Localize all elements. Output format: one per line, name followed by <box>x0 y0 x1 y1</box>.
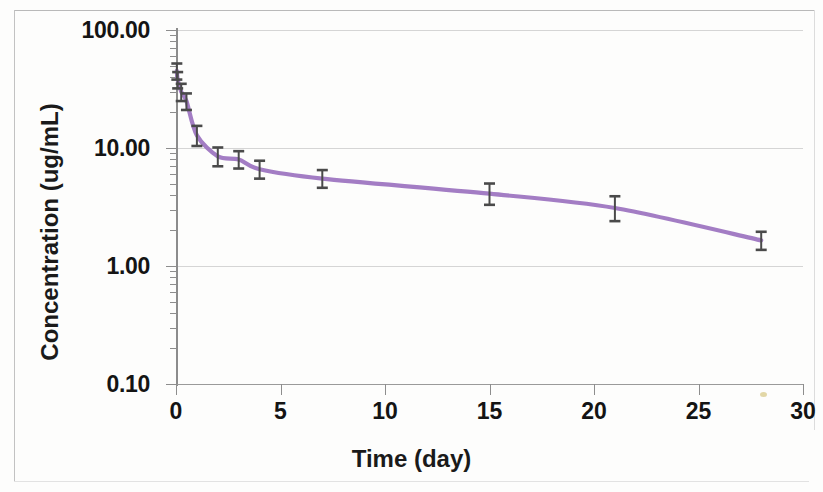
y-axis-labels: 100.00 10.00 1.00 0.10 <box>0 0 160 492</box>
y-axis-tick <box>170 41 177 42</box>
y-axis-tick <box>170 277 177 278</box>
concentration-time-chart: 100.00 10.00 1.00 0.10 0 5 10 15 20 25 3… <box>0 0 823 492</box>
y-tick-label-0.1: 0.10 <box>106 371 150 398</box>
x-tick-label-20: 20 <box>581 398 607 425</box>
y-axis-tick <box>170 230 177 231</box>
gridline-100 <box>176 30 803 31</box>
x-tick-15 <box>490 384 491 395</box>
y-axis-tick <box>170 195 177 196</box>
y-axis-tick <box>170 77 177 78</box>
y-tick-label-1: 1.00 <box>106 253 150 280</box>
y-axis-title: Concentration (ug/mL) <box>36 72 64 392</box>
y-axis-tick <box>170 92 177 93</box>
y-axis-tick <box>166 148 177 149</box>
y-axis-tick <box>170 153 177 154</box>
y-axis-tick <box>170 184 177 185</box>
gridline-1 <box>176 266 803 267</box>
gridline-10 <box>176 148 803 149</box>
y-axis-tick <box>170 292 177 293</box>
x-axis-title: Time (day) <box>0 445 823 473</box>
y-axis-tick <box>170 112 177 113</box>
y-axis-tick <box>170 328 177 329</box>
x-tick-20 <box>594 384 595 395</box>
x-tick-5 <box>281 384 282 395</box>
y-axis-tick <box>170 271 177 272</box>
x-tick-label-15: 15 <box>477 398 503 425</box>
x-tick-0 <box>176 384 177 395</box>
y-axis-tick <box>170 284 177 285</box>
y-axis-tick <box>170 166 177 167</box>
scan-artifact-speck <box>760 392 767 397</box>
y-axis-tick <box>170 210 177 211</box>
x-tick-label-30: 30 <box>790 398 816 425</box>
x-tick-label-5: 5 <box>274 398 287 425</box>
y-axis-tick <box>166 266 177 267</box>
y-axis-tick <box>166 30 177 31</box>
y-tick-label-10: 10.00 <box>94 135 150 162</box>
y-axis-tick <box>170 56 177 57</box>
x-tick-label-25: 25 <box>686 398 712 425</box>
y-axis-tick <box>170 35 177 36</box>
x-tick-label-0: 0 <box>170 398 183 425</box>
x-tick-label-10: 10 <box>372 398 398 425</box>
y-axis-tick <box>170 66 177 67</box>
y-axis-tick <box>170 313 177 314</box>
x-tick-30 <box>803 384 804 395</box>
y-tick-label-100: 100.00 <box>81 17 150 44</box>
y-axis-tick <box>170 48 177 49</box>
y-axis-tick <box>170 348 177 349</box>
x-tick-10 <box>385 384 386 395</box>
y-axis-tick <box>170 159 177 160</box>
plot-area <box>176 30 803 384</box>
y-axis-tick <box>170 174 177 175</box>
y-axis-tick <box>170 302 177 303</box>
x-tick-25 <box>699 384 700 395</box>
